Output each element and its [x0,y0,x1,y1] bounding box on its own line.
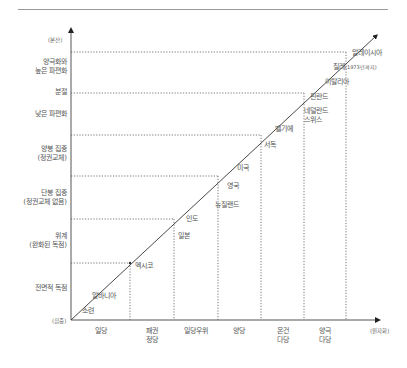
y-level-low-fragmentation: 낮은 파편화 [35,110,67,119]
country-new-zealand: 뉴질랜드 [215,201,239,210]
y-level-bipolar: 양봉 집중 (정권교체) [38,145,67,163]
x-cat-predominant: 일당우위 [176,327,216,336]
country-italy: 이탈리아 [325,78,349,87]
y-level-hierarchy: 위계 (완화된 독점) [29,232,67,250]
country-india: 인도 [186,215,198,224]
country-uk: 영국 [227,182,239,191]
y-level-segmented: 분절 [55,88,67,97]
y-axis-bottom-label: (집중) [52,317,66,326]
country-usa: 미국 [237,164,249,173]
country-belgium: 벨기에 [275,125,293,134]
y-level-monopoly: 전면적 독점 [35,284,67,293]
x-cat-hegemonic: 패권 정당 [132,327,172,345]
y-level-polarized: 양극화와 높은 파편화 [35,58,67,76]
country-west-germany: 서독 [264,141,276,150]
x-cat-two-party: 양당 [219,327,259,336]
country-chile: 칠레(1973년까지) [333,63,377,72]
x-cat-moderate-multi: 온건 다당 [263,327,303,345]
x-axis-right-label: (원자화) [370,327,389,336]
y-level-unipolar: 단봉 집중 (정권교체 없음) [23,189,67,207]
plot-area [0,0,407,368]
country-japan: 일본 [178,232,190,241]
country-malaysia: 말레이시아 [352,49,382,58]
country-netherlands-switzerland: 네덜란드 스위스 [304,107,328,125]
country-finland: 핀란드 [310,93,328,102]
x-cat-polarized-multi: 양극 다당 [305,327,345,345]
x-cat-one-party: 일당 [81,327,121,336]
country-albania: 알바니아 [92,292,116,301]
country-ussr: 소련 [82,307,94,316]
y-axis-top-label: (분산) [48,36,62,45]
country-mexico: 멕시코 [135,262,153,271]
